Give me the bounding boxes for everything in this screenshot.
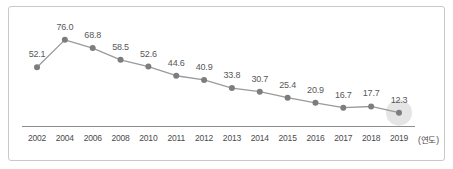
x-axis-tick-label-2010: 2010 — [139, 133, 157, 143]
x-axis-tick-label-2016: 2016 — [306, 133, 324, 143]
data-point-value-label: 52.1 — [29, 49, 46, 59]
data-point-value-label: 17.7 — [363, 88, 380, 98]
data-point-marker[interactable] — [62, 37, 68, 43]
data-point-marker[interactable] — [340, 105, 346, 111]
data-point-marker[interactable] — [285, 95, 291, 101]
data-line — [37, 40, 399, 113]
data-point-marker[interactable] — [34, 64, 40, 70]
data-point-value-label: 30.7 — [251, 74, 268, 84]
data-point-marker[interactable] — [368, 103, 374, 109]
x-axis-line — [22, 126, 415, 127]
data-point-marker[interactable] — [201, 77, 207, 83]
data-marker-group — [34, 37, 402, 116]
x-axis-tick-label-2011: 2011 — [167, 133, 184, 143]
x-axis-tick-label-2004: 2004 — [56, 133, 74, 143]
x-axis-tick-label-2017: 2017 — [334, 133, 352, 143]
x-axis-tick-label-2012: 2012 — [195, 133, 213, 143]
data-point-value-label: 20.9 — [307, 85, 324, 95]
data-point-marker[interactable] — [257, 89, 263, 95]
x-axis-tick-label-2008: 2008 — [111, 133, 129, 143]
x-axis-tick-label-2019: 2019 — [390, 133, 408, 143]
data-point-marker[interactable] — [118, 57, 124, 63]
x-axis-tick-label-2014: 2014 — [251, 133, 269, 143]
data-point-value-label: 44.6 — [168, 58, 185, 68]
x-axis-tick-label-2018: 2018 — [362, 133, 380, 143]
data-point-value-label: 68.8 — [84, 30, 101, 40]
x-axis-tick-label-2015: 2015 — [279, 133, 297, 143]
data-point-marker[interactable] — [396, 110, 402, 116]
x-axis-tick-label-2013: 2013 — [223, 133, 241, 143]
data-point-value-label: 33.8 — [224, 70, 241, 80]
data-point-value-label: 58.5 — [112, 42, 129, 52]
data-point-value-label: 52.6 — [140, 49, 157, 59]
x-axis-tick-label-2006: 2006 — [84, 133, 102, 143]
data-point-marker[interactable] — [173, 73, 179, 79]
x-axis-tick-label-2002: 2002 — [28, 133, 46, 143]
data-point-value-label: 25.4 — [279, 80, 296, 90]
data-point-marker[interactable] — [145, 64, 151, 70]
data-point-value-label: 40.9 — [196, 62, 213, 72]
chart-container: 52.176.068.858.552.644.640.933.830.725.4… — [0, 0, 453, 169]
data-point-marker[interactable] — [90, 45, 96, 51]
data-point-value-label: 76.0 — [56, 22, 73, 32]
data-point-marker[interactable] — [312, 100, 318, 106]
data-point-marker[interactable] — [229, 85, 235, 91]
data-point-value-label: 12.3 — [391, 95, 408, 105]
x-axis-unit-label: (연도) — [418, 133, 439, 145]
data-point-value-label: 16.7 — [335, 90, 352, 100]
